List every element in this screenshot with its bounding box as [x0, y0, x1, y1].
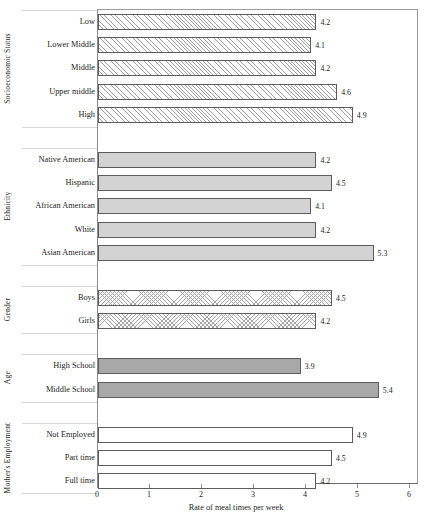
- category-label: Part time: [0, 454, 95, 462]
- bar-value-label: 5.3: [378, 248, 388, 257]
- group-axis-label: Age: [0, 354, 14, 401]
- bar-value-label: 5.4: [383, 385, 393, 394]
- category-label: African American: [0, 202, 95, 210]
- category-label: Middle: [0, 64, 95, 72]
- bar: [98, 427, 353, 443]
- category-label: High School: [0, 362, 95, 370]
- bar: [98, 198, 311, 214]
- group-divider: [22, 423, 97, 424]
- category-label: Middle School: [0, 385, 95, 393]
- category-label: Low: [0, 18, 95, 26]
- bar: [98, 245, 374, 261]
- bar-value-label: 3.9: [305, 362, 315, 371]
- group-axis-label: Socioeconomic Status: [0, 10, 14, 127]
- bar: [98, 473, 316, 489]
- bar: [98, 313, 316, 329]
- bar: [98, 222, 316, 238]
- bar: [98, 382, 379, 398]
- bar-value-label: 4.1: [315, 41, 325, 50]
- bar-chart: Low4.2Lower Middle4.1Middle4.2Upper midd…: [0, 0, 438, 529]
- x-axis-tick: [357, 484, 358, 488]
- category-label: White: [0, 225, 95, 233]
- group-divider: [22, 402, 97, 403]
- group-divider: [22, 148, 97, 149]
- category-label: Native American: [0, 156, 95, 164]
- x-axis-tick-label: 4: [303, 490, 307, 499]
- category-label: Not Employed: [0, 431, 95, 439]
- bar-value-label: 4.5: [336, 179, 346, 188]
- x-axis-tick: [201, 484, 202, 488]
- group-divider: [22, 127, 97, 128]
- bar-value-label: 4.1: [315, 202, 325, 211]
- x-axis-tick-label: 1: [147, 490, 151, 499]
- bar-value-label: 4.2: [320, 225, 330, 234]
- x-axis-tick: [253, 484, 254, 488]
- bar: [98, 60, 316, 76]
- x-axis-tick-label: 6: [407, 490, 411, 499]
- bar-value-label: 4.6: [341, 87, 351, 96]
- group-axis-label: Mother's Employment: [0, 423, 14, 493]
- bar-value-label: 4.2: [320, 64, 330, 73]
- bar: [98, 152, 316, 168]
- bar-value-label: 4.9: [357, 430, 367, 439]
- bar: [98, 84, 337, 100]
- group-divider: [22, 493, 97, 494]
- category-label: Boys: [0, 294, 95, 302]
- category-label: Upper middle: [0, 87, 95, 95]
- bar: [98, 175, 332, 191]
- bar-value-label: 4.2: [320, 317, 330, 326]
- group-divider: [22, 333, 97, 334]
- group-divider: [22, 286, 97, 287]
- bar: [98, 37, 311, 53]
- bar-value-label: 4.2: [320, 18, 330, 27]
- x-axis-tick: [149, 484, 150, 488]
- x-axis-tick: [409, 484, 410, 488]
- bar-value-label: 4.5: [336, 454, 346, 463]
- bar: [98, 358, 301, 374]
- x-axis-tick: [97, 484, 98, 488]
- bar: [98, 14, 316, 30]
- group-axis-label: Gender: [0, 286, 14, 333]
- bar: [98, 290, 332, 306]
- bar: [98, 107, 353, 123]
- group-divider: [22, 10, 97, 11]
- x-axis-tick: [305, 484, 306, 488]
- category-label: Lower Middle: [0, 41, 95, 49]
- x-axis-title: Rate of meal times per week: [0, 503, 438, 512]
- bar-value-label: 4.5: [336, 294, 346, 303]
- group-divider: [22, 354, 97, 355]
- bar-value-label: 4.2: [320, 156, 330, 165]
- category-label: Full time: [0, 477, 95, 485]
- category-label: High: [0, 111, 95, 119]
- x-axis-tick-label: 5: [355, 490, 359, 499]
- x-axis-tick-label: 3: [251, 490, 255, 499]
- category-label: Asian American: [0, 249, 95, 257]
- bar-value-label: 4.2: [320, 477, 330, 486]
- category-label: Girls: [0, 317, 95, 325]
- x-axis-title-text: Rate of meal times per week: [189, 503, 284, 512]
- bar: [98, 450, 332, 466]
- x-axis-tick-label: 0: [95, 490, 99, 499]
- group-divider: [22, 265, 97, 266]
- bar-value-label: 4.9: [357, 110, 367, 119]
- x-axis-tick-label: 2: [199, 490, 203, 499]
- category-label: Hispanic: [0, 179, 95, 187]
- group-axis-label: Ethnicity: [0, 148, 14, 265]
